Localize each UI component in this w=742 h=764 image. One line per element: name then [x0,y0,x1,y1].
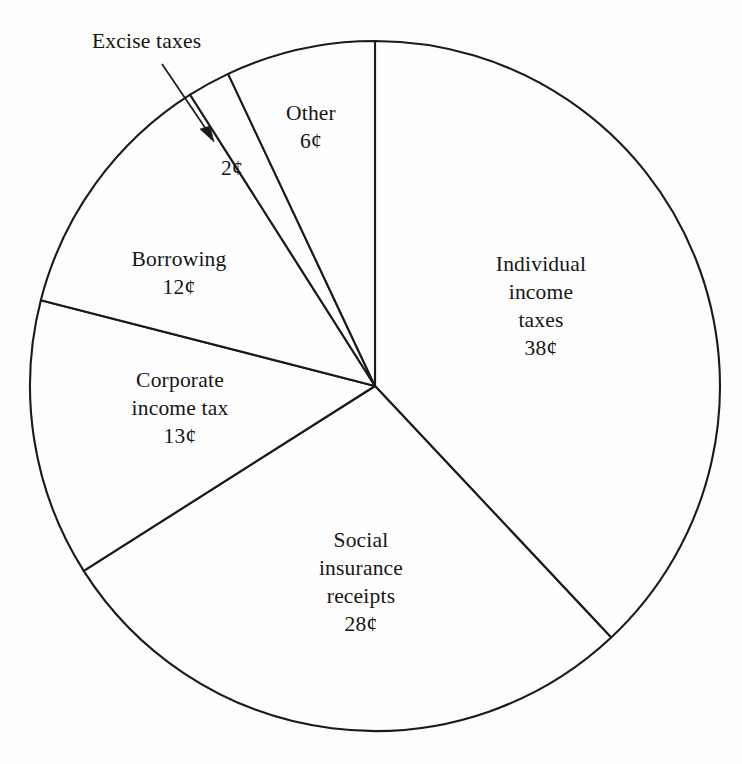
slice-value-corporate-income-tax: 13¢ [80,423,280,451]
slice-label-corporate-income-tax: Corporate income tax 13¢ [80,367,280,451]
slice-label-line: income [441,279,641,307]
slice-label-line: Social [261,527,461,555]
slice-label-line: taxes [441,307,641,335]
slice-label-line: income tax [80,395,280,423]
slice-label-line: Borrowing [94,246,264,274]
slice-value-borrowing: 12¢ [94,274,264,302]
slice-label-social-insurance-receipts: Social insurance receipts 28¢ [261,527,461,639]
slice-label-line: Other [251,100,371,128]
slice-label-excise-taxes: 2¢ [186,155,278,183]
slice-label-other: Other 6¢ [251,100,371,156]
slice-label-line: Individual [441,251,641,279]
excise-taxes-callout-label: Excise taxes [92,28,201,55]
slice-label-line: receipts [261,583,461,611]
slice-value-other: 6¢ [251,128,371,156]
pie-chart-figure: Excise taxes Individual income taxes 38¢… [0,0,742,764]
slice-label-individual-income-taxes: Individual income taxes 38¢ [441,251,641,363]
slice-value-individual-income-taxes: 38¢ [441,335,641,363]
slice-label-line: insurance [261,555,461,583]
slice-label-borrowing: Borrowing 12¢ [94,246,264,302]
slice-label-line: Corporate [80,367,280,395]
slice-value-social-insurance-receipts: 28¢ [261,611,461,639]
slice-value-excise-taxes: 2¢ [186,155,278,183]
